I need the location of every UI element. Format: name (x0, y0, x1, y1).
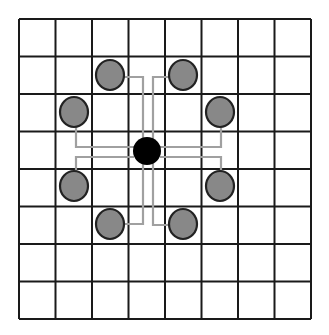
neighbor-node-bottom-right (169, 209, 197, 239)
connector-right (160, 127, 221, 147)
center-node (133, 137, 161, 165)
connector-bottom-left (124, 163, 143, 224)
neighbor-node-lower-left (60, 171, 88, 201)
connector-bottom-right (153, 163, 169, 225)
grid-lines (19, 19, 311, 319)
grid-diagram (0, 0, 329, 335)
neighbor-node-left (60, 97, 88, 127)
neighbor-node-top-left (96, 60, 124, 90)
neighbor-node-right (206, 97, 234, 127)
neighbor-node-lower-right (206, 171, 234, 201)
neighbor-node-bottom-left (96, 209, 124, 239)
connector-left (76, 127, 134, 147)
neighbor-node-top-right (169, 60, 197, 90)
